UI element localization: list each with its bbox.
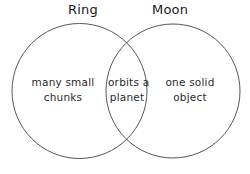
region-text-intersection-line-1: orbits a bbox=[108, 75, 146, 90]
region-text-ring-only: many small chunks bbox=[22, 75, 104, 105]
venn-diagram: Ring Moon many small chunks orbits a pla… bbox=[0, 0, 250, 174]
region-text-ring-only-line-1: many small bbox=[22, 75, 104, 90]
region-text-ring-only-line-2: chunks bbox=[22, 90, 104, 105]
region-text-moon-only: one solid object bbox=[150, 75, 230, 105]
set-label-moon: Moon bbox=[152, 2, 188, 17]
region-text-moon-only-line-1: one solid bbox=[150, 75, 230, 90]
region-text-intersection: orbits a planet bbox=[108, 75, 146, 105]
set-label-ring: Ring bbox=[68, 2, 98, 17]
region-text-moon-only-line-2: object bbox=[150, 90, 230, 105]
region-text-intersection-line-2: planet bbox=[108, 90, 146, 105]
